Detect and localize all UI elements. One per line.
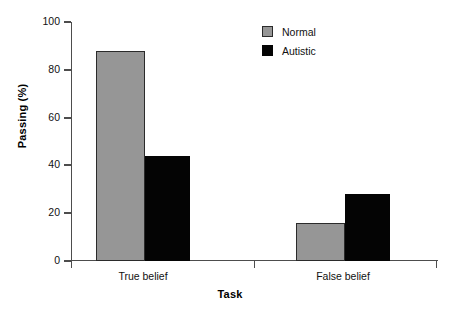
bar-true-belief-autistic: [145, 156, 190, 261]
y-axis-line: [71, 22, 72, 262]
x-category-label-true-belief: True belief: [118, 270, 167, 282]
y-tick-label: 100: [22, 16, 60, 26]
bar-false-belief-normal: [296, 223, 345, 261]
y-tick-mark: [64, 69, 71, 70]
y-tick-label: 0: [22, 255, 60, 265]
x-tick-mark-left: [71, 261, 72, 268]
gray-square-icon: [262, 26, 273, 37]
bar-false-belief-autistic: [345, 194, 390, 261]
x-category-label-false-belief: False belief: [316, 270, 370, 282]
bar-true-belief-normal: [96, 51, 145, 261]
x-tick-mark-right: [436, 261, 437, 268]
legend-label-autistic: Autistic: [282, 45, 316, 57]
y-tick-mark: [64, 164, 71, 165]
legend-item-autistic: Autistic: [262, 41, 316, 60]
legend-item-normal: Normal: [262, 22, 316, 41]
x-tick-mark-center: [254, 261, 255, 268]
bar-chart: 100 80 60 40 20 0 True belief False beli…: [0, 0, 460, 310]
legend-label-normal: Normal: [282, 26, 316, 38]
y-tick-label: 20: [22, 207, 60, 217]
y-tick-mark: [64, 21, 71, 22]
y-tick-mark: [64, 260, 71, 261]
y-axis-title: Passing (%): [16, 56, 28, 176]
x-axis-title: Task: [0, 288, 460, 300]
y-tick-mark: [64, 212, 71, 213]
legend: Normal Autistic: [262, 22, 316, 60]
black-square-icon: [262, 45, 273, 56]
y-tick-mark: [64, 117, 71, 118]
